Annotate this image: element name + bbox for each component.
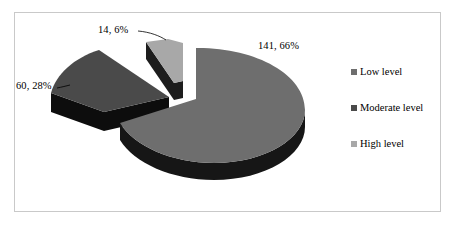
data-label-moderate-level: 60, 28% bbox=[16, 80, 52, 91]
legend-item-moderate-level[interactable]: Moderate level bbox=[351, 102, 443, 114]
legend-swatch-icon bbox=[351, 141, 357, 147]
data-label-high-level: 14, 6% bbox=[98, 24, 128, 35]
legend-item-low-level[interactable]: Low level bbox=[351, 66, 443, 78]
pie-slice-high-side-right bbox=[174, 81, 183, 100]
legend-label-moderate-level: Moderate level bbox=[360, 102, 423, 114]
legend-label-low-level: Low level bbox=[360, 66, 402, 78]
legend-swatch-icon bbox=[351, 105, 357, 111]
legend-item-high-level[interactable]: High level bbox=[351, 138, 443, 150]
legend-label-high-level: High level bbox=[360, 138, 404, 150]
data-label-low-level: 141, 66% bbox=[258, 40, 299, 51]
plot-area: 141, 66% 60, 28% 14, 6% Low level Modera… bbox=[0, 0, 459, 226]
pie-chart-figure: 141, 66% 60, 28% 14, 6% Low level Modera… bbox=[0, 0, 459, 226]
chart-legend: Low level Moderate level High level bbox=[351, 66, 443, 150]
legend-swatch-icon bbox=[351, 69, 357, 75]
leader-line-high-level bbox=[138, 31, 166, 40]
